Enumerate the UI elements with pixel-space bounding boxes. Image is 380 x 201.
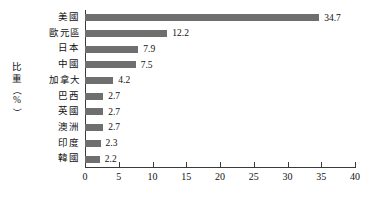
category-label: 加拿大 xyxy=(26,73,81,89)
y-axis-title-paren-close: ） xyxy=(12,103,22,121)
bar-value-label: 2.7 xyxy=(108,121,120,133)
bar-row: 4.2 xyxy=(85,73,355,89)
bar-row: 2.7 xyxy=(85,89,355,105)
bar xyxy=(85,77,113,84)
category-label: 日本 xyxy=(26,41,81,57)
category-label: 巴西 xyxy=(26,89,81,105)
bar-value-label: 2.7 xyxy=(108,106,120,118)
bar-value-label: 7.5 xyxy=(141,59,153,71)
category-label: 歐元區 xyxy=(26,26,81,42)
bar-chart: 比 重 （ % ） 美國歐元區日本中國加拿大巴西英國澳洲印度韓國 34.712.… xyxy=(0,0,380,201)
bar-value-label: 34.7 xyxy=(324,12,341,24)
bar-row: 12.2 xyxy=(85,26,355,42)
x-axis-tick xyxy=(288,162,289,167)
x-axis-tick-label: 5 xyxy=(104,170,134,184)
x-axis-tick xyxy=(186,162,187,167)
category-label: 美國 xyxy=(26,10,81,26)
x-axis-tick-labels: 0510152025303540 xyxy=(85,170,356,186)
bar-row: 7.9 xyxy=(85,41,355,57)
category-label: 印度 xyxy=(26,136,81,152)
x-axis-line xyxy=(85,167,356,168)
category-label: 韓國 xyxy=(26,151,81,167)
y-axis-title: 比 重 （ % ） xyxy=(8,62,26,117)
category-label: 英國 xyxy=(26,104,81,120)
bar-row: 7.5 xyxy=(85,57,355,73)
bar-value-label: 2.2 xyxy=(105,153,117,165)
bar-value-label: 12.2 xyxy=(172,27,189,39)
bar-value-label: 7.9 xyxy=(143,43,155,55)
bar xyxy=(85,30,167,37)
x-axis-tick xyxy=(119,162,120,167)
bar-value-label: 4.2 xyxy=(118,74,130,86)
plot-area: 34.712.27.97.54.22.72.72.72.32.2 xyxy=(85,10,355,167)
category-axis-labels: 美國歐元區日本中國加拿大巴西英國澳洲印度韓國 xyxy=(26,10,83,167)
x-axis-tick-label: 25 xyxy=(239,170,269,184)
category-label: 澳洲 xyxy=(26,120,81,136)
bar-value-label: 2.7 xyxy=(108,90,120,102)
bar-row: 2.3 xyxy=(85,136,355,152)
bar xyxy=(85,108,103,115)
bar xyxy=(85,46,138,53)
x-axis-tick-label: 30 xyxy=(273,170,303,184)
bar-row: 2.7 xyxy=(85,120,355,136)
bar xyxy=(85,124,103,131)
x-axis-tick-label: 10 xyxy=(138,170,168,184)
x-axis-tick-label: 35 xyxy=(306,170,336,184)
bar-row: 2.7 xyxy=(85,104,355,120)
y-axis-title-char-1: 比 xyxy=(8,62,26,74)
bar xyxy=(85,14,319,21)
bar xyxy=(85,140,101,147)
x-axis-tick-label: 20 xyxy=(205,170,235,184)
bar-value-label: 2.3 xyxy=(106,137,118,149)
bar xyxy=(85,61,136,68)
bar xyxy=(85,93,103,100)
x-axis-tick xyxy=(153,162,154,167)
x-axis-tick xyxy=(321,162,322,167)
x-axis-tick xyxy=(220,162,221,167)
bar-row: 34.7 xyxy=(85,10,355,26)
x-axis-tick-label: 15 xyxy=(171,170,201,184)
category-label: 中國 xyxy=(26,57,81,73)
y-axis-title-paren-open: （ xyxy=(12,81,22,99)
x-axis-tick-label: 0 xyxy=(70,170,100,184)
bar xyxy=(85,156,100,163)
x-axis-tick xyxy=(254,162,255,167)
x-axis-tick-label: 40 xyxy=(340,170,370,184)
x-axis-tick xyxy=(355,162,356,167)
